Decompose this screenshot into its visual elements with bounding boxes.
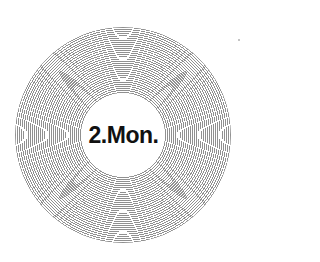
center-label: 2.Mon. xyxy=(89,122,159,149)
center-hole: 2.Mon. xyxy=(81,93,165,177)
speck-dot xyxy=(238,39,240,41)
